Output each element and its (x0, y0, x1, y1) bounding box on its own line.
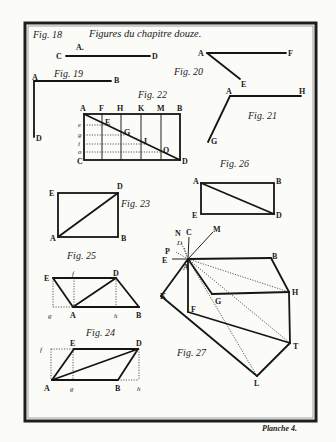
figure-25: Fig. 25 E f D g A h B (44, 250, 142, 320)
svg-text:Fig. 19: Fig. 19 (53, 68, 83, 79)
svg-text:G: G (211, 137, 217, 146)
svg-text:B: B (121, 234, 127, 243)
figure-24: Fig. 24 f E D A g B h (40, 327, 142, 393)
figure-19: Fig. 19 A B D (32, 68, 120, 143)
svg-text:A: A (80, 104, 86, 113)
svg-text:D: D (152, 52, 158, 61)
svg-text:K: K (138, 104, 145, 113)
svg-text:Fig. 23: Fig. 23 (120, 198, 150, 209)
figure-27: N C M D P E A B H K G F T L Fig. 27 (160, 225, 299, 388)
svg-text:C: C (77, 157, 83, 166)
svg-text:F: F (99, 104, 104, 113)
figure-22: Fig. 22 A F H K M B e g i o C E G I O D (77, 89, 188, 166)
svg-text:g: g (48, 312, 52, 320)
svg-text:B: B (114, 76, 120, 85)
engraving-plate: Fig. 18 Figures du chapitre douze. A. C … (0, 0, 336, 442)
svg-text:D: D (276, 211, 282, 220)
svg-text:B: B (276, 177, 282, 186)
svg-text:M: M (213, 225, 221, 234)
svg-text:H: H (299, 87, 306, 96)
svg-text:f: f (40, 346, 43, 354)
svg-text:f: f (72, 270, 75, 278)
svg-text:E: E (162, 256, 167, 265)
svg-text:A: A (70, 311, 76, 320)
svg-text:F: F (191, 305, 196, 314)
svg-text:H: H (117, 104, 124, 113)
svg-text:g: g (78, 131, 82, 139)
svg-text:g: g (70, 385, 74, 393)
svg-text:K: K (160, 292, 167, 301)
figure-26: Fig. 26 A B E D (192, 158, 282, 220)
svg-text:i: i (78, 140, 80, 148)
svg-text:D: D (36, 134, 42, 143)
svg-text:E: E (192, 211, 197, 220)
svg-text:E: E (105, 118, 110, 127)
svg-text:A: A (183, 263, 189, 272)
svg-text:C: C (186, 228, 192, 237)
svg-text:E: E (70, 339, 75, 348)
svg-text:T: T (293, 342, 299, 351)
svg-text:P: P (165, 247, 170, 256)
svg-text:Fig. 27: Fig. 27 (176, 347, 207, 358)
svg-text:o: o (78, 148, 82, 156)
svg-text:D: D (182, 157, 188, 166)
svg-text:D: D (117, 182, 123, 191)
svg-text:H: H (292, 288, 299, 297)
svg-text:L: L (254, 379, 259, 388)
svg-text:e: e (78, 121, 81, 129)
svg-text:M: M (157, 104, 165, 113)
plate-number: Planche 4. (262, 424, 297, 433)
svg-text:E: E (49, 189, 54, 198)
svg-text:A: A (198, 49, 204, 58)
svg-text:B: B (136, 311, 142, 320)
svg-text:E: E (241, 80, 246, 89)
svg-text:A: A (193, 177, 199, 186)
svg-text:Fig. 26: Fig. 26 (219, 158, 249, 169)
plate-title: Figures du chapitre douze. (88, 28, 201, 39)
svg-text:Fig. 22: Fig. 22 (137, 89, 167, 100)
figure-23: E D A B Fig. 23 (49, 182, 150, 243)
svg-text:D: D (176, 239, 182, 247)
svg-text:D: D (113, 269, 119, 278)
figure-20: Fig. 20 A F E (173, 49, 293, 89)
svg-text:B: B (177, 104, 183, 113)
svg-text:A: A (32, 73, 38, 82)
svg-text:Fig. 20: Fig. 20 (173, 66, 203, 77)
svg-text:F: F (288, 49, 293, 58)
svg-text:N: N (175, 229, 181, 238)
svg-text:E: E (44, 274, 49, 283)
svg-text:D: D (136, 339, 142, 348)
svg-text:h: h (137, 385, 141, 393)
svg-text:Fig. 25: Fig. 25 (66, 250, 96, 261)
svg-text:A: A (226, 87, 232, 96)
svg-text:A: A (50, 234, 56, 243)
svg-text:B: B (272, 252, 278, 261)
svg-text:O: O (163, 146, 169, 155)
svg-text:B: B (115, 384, 121, 393)
svg-text:G: G (215, 297, 221, 306)
figure-18: A. C D (56, 43, 158, 61)
svg-text:Fig. 21: Fig. 21 (247, 110, 277, 121)
fig18-label: Fig. 18 (32, 29, 62, 40)
svg-text:I: I (144, 137, 147, 146)
svg-text:Fig. 24: Fig. 24 (85, 327, 115, 338)
svg-text:G: G (124, 128, 130, 137)
plate-inner-border (28, 26, 313, 418)
figure-21: A H G Fig. 21 (208, 87, 306, 146)
svg-text:A.: A. (76, 43, 84, 52)
svg-text:h: h (114, 312, 118, 320)
svg-text:C: C (56, 52, 62, 61)
svg-text:A: A (44, 384, 50, 393)
